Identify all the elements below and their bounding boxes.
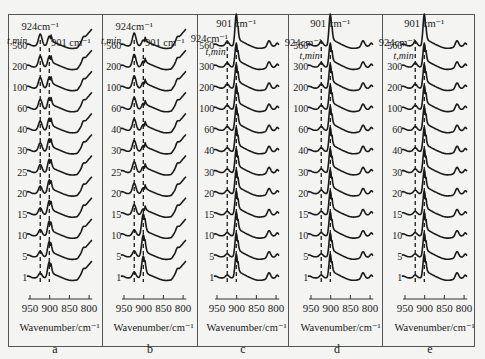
x-tick-label: 850	[436, 302, 453, 314]
time-label: 5	[22, 251, 27, 262]
spectrum-trace	[214, 64, 279, 90]
spectrum-trace	[308, 191, 373, 217]
time-label: 25	[17, 167, 27, 178]
time-label: 10	[17, 230, 27, 241]
spectrum-trace	[27, 219, 92, 238]
spectra-figure: 950900850800Wavenumber/cm⁻¹5602001006040…	[0, 0, 485, 359]
time-label: 30	[111, 145, 121, 156]
time-label: 30	[17, 145, 27, 156]
panel-letter-a: a	[45, 342, 65, 357]
spectrum-trace	[214, 233, 279, 259]
panel-letter-c: c	[233, 342, 253, 357]
x-axis-label: Wavenumber/cm⁻¹	[394, 322, 474, 333]
time-label: 1	[22, 272, 27, 283]
spectrum-trace	[308, 128, 373, 154]
spectrum-trace	[402, 85, 467, 111]
spectrum-trace	[402, 254, 467, 280]
spectrum-trace	[27, 240, 92, 259]
spectrum-trace	[121, 92, 186, 111]
time-label: 100	[12, 82, 27, 93]
peak-901-label: 901 cm⁻¹	[310, 18, 350, 29]
time-label: 40	[298, 145, 308, 156]
time-label: 20	[204, 188, 214, 199]
spectrum-trace	[308, 212, 373, 238]
time-label: 100	[106, 82, 121, 93]
x-tick-label: 950	[116, 302, 133, 314]
spectrum-trace	[214, 254, 279, 280]
time-label: 20	[392, 188, 402, 199]
time-label: 60	[298, 124, 308, 135]
time-label: 5	[116, 251, 121, 262]
time-label: 300	[199, 61, 214, 72]
spectrum-trace	[402, 170, 467, 196]
time-label: 1	[116, 272, 121, 283]
spectrum-trace	[27, 92, 92, 111]
time-label: 200	[387, 82, 402, 93]
time-label: 60	[204, 124, 214, 135]
time-label: 5	[397, 251, 402, 262]
panel-letter-e: e	[420, 342, 440, 357]
time-header: t,min	[205, 46, 225, 57]
x-tick-label: 900	[322, 302, 339, 314]
x-tick-label: 950	[22, 302, 39, 314]
time-label: 30	[392, 167, 402, 178]
x-tick-label: 950	[303, 302, 320, 314]
spectrum-trace	[214, 128, 279, 154]
peak-901-label: 901 cm⁻¹	[51, 37, 91, 48]
time-header: t,min	[393, 50, 413, 61]
spectrum-trace	[308, 149, 373, 175]
x-axis-label: Wavenumber/cm⁻¹	[206, 322, 286, 333]
time-label: 15	[111, 209, 121, 220]
time-label: 40	[392, 145, 402, 156]
spectrum-trace	[214, 212, 279, 238]
peak-924-label: 924cm⁻¹	[191, 33, 228, 44]
time-label: 10	[298, 230, 308, 241]
time-label: 40	[111, 124, 121, 135]
time-label: 300	[387, 61, 402, 72]
spectrum-trace	[27, 177, 92, 196]
time-label: 60	[392, 124, 402, 135]
peak-924-label: 924cm⁻¹	[379, 37, 416, 48]
spectrum-trace	[402, 106, 467, 132]
spectrum-trace	[121, 235, 186, 260]
x-tick-label: 950	[209, 302, 226, 314]
x-tick-label: 950	[397, 302, 414, 314]
time-label: 100	[199, 103, 214, 114]
x-tick-label: 800	[175, 302, 192, 314]
x-tick-label: 900	[228, 302, 245, 314]
time-header: t,min	[7, 35, 27, 46]
spectrum-trace	[121, 135, 186, 154]
time-label: 15	[392, 209, 402, 220]
spectrum-trace	[402, 149, 467, 175]
spectrum-trace	[308, 64, 373, 90]
time-label: 10	[392, 230, 402, 241]
spectrum-trace	[402, 191, 467, 217]
time-header: t,min	[299, 50, 319, 61]
time-label: 200	[106, 61, 121, 72]
time-label: 40	[17, 124, 27, 135]
spectrum-trace	[27, 50, 92, 69]
spectrum-trace	[27, 156, 92, 175]
time-label: 10	[111, 230, 121, 241]
spectrum-trace	[27, 261, 92, 280]
time-label: 60	[17, 103, 27, 114]
spectrum-trace	[121, 198, 186, 217]
x-tick-label: 850	[248, 302, 265, 314]
time-label: 100	[387, 103, 402, 114]
x-tick-label: 800	[362, 302, 379, 314]
x-axis-label: Wavenumber/cm⁻¹	[300, 322, 380, 333]
panel-letter-d: d	[327, 342, 347, 357]
spectrum-trace	[121, 156, 186, 175]
spectrum-trace	[121, 50, 186, 69]
spectrum-trace	[214, 85, 279, 111]
spectrum-trace	[308, 254, 373, 280]
spectrum-trace	[27, 71, 92, 90]
spectrum-trace	[214, 191, 279, 217]
spectrum-trace	[308, 106, 373, 132]
time-label: 20	[111, 188, 121, 199]
time-label: 40	[204, 145, 214, 156]
peak-901-label: 901 cm⁻¹	[145, 37, 185, 48]
time-label: 1	[209, 272, 214, 283]
x-tick-label: 900	[135, 302, 152, 314]
peak-924-label: 924cm⁻¹	[22, 21, 59, 32]
